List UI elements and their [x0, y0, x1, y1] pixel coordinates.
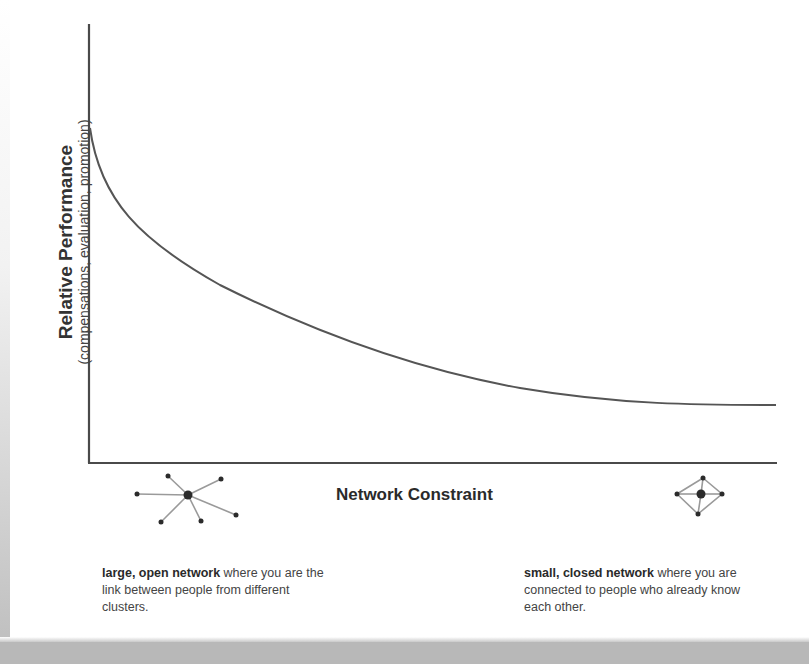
- closed-network-icon: [675, 476, 725, 517]
- closed-network-caption-bold: small, closed network: [524, 566, 654, 580]
- open-network-icon: [135, 474, 239, 525]
- open-network-caption-bold: large, open network: [102, 566, 220, 580]
- y-axis-label: Relative Performance (compensations, eva…: [55, 119, 93, 364]
- performance-curve: [90, 128, 776, 405]
- y-axis-subtitle: (compensations, evaluation, promotion): [76, 119, 93, 364]
- y-axis-title: Relative Performance: [55, 119, 76, 364]
- closed-network-caption: small, closed network where you are conn…: [524, 565, 764, 616]
- x-axis-label: Network Constraint: [336, 485, 493, 505]
- open-network-caption: large, open network where you are the li…: [102, 565, 332, 616]
